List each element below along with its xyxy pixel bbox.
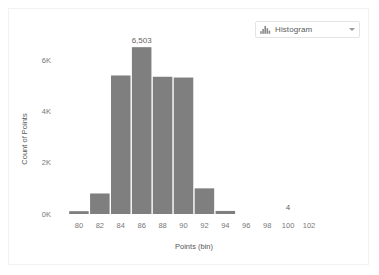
- x-tick-label: 100: [282, 221, 295, 230]
- x-tick-label: 84: [117, 221, 125, 230]
- bar-value-label: 6,503: [132, 36, 153, 45]
- y-tick-label: 6K: [42, 56, 51, 65]
- x-tick-label: 96: [242, 221, 250, 230]
- x-tick-label: 98: [263, 221, 271, 230]
- x-tick-label: 92: [200, 221, 208, 230]
- histogram-svg: 0K2K4K6K 80828486889092949698100102 6,50…: [9, 9, 370, 266]
- bar[interactable]: [195, 188, 215, 214]
- y-tick-label: 2K: [42, 158, 51, 167]
- bar[interactable]: [90, 193, 110, 214]
- histogram-plot: 0K2K4K6K 80828486889092949698100102 6,50…: [9, 9, 370, 266]
- x-tick-label: 102: [303, 221, 316, 230]
- bars-group: [69, 47, 235, 214]
- x-tick-label: 80: [75, 221, 83, 230]
- bar[interactable]: [69, 211, 89, 214]
- y-tick-label: 4K: [42, 107, 51, 116]
- y-tick-label: 0K: [42, 210, 51, 219]
- bar[interactable]: [132, 47, 152, 214]
- bar[interactable]: [174, 78, 194, 214]
- bar-value-label: 4: [286, 203, 291, 212]
- x-tick-label: 88: [158, 221, 166, 230]
- x-tick-label: 94: [221, 221, 229, 230]
- bar[interactable]: [111, 75, 131, 214]
- chart-card: Histogram 0K2K4K6K 808284868890929496981…: [8, 8, 369, 265]
- x-tick-label: 90: [179, 221, 187, 230]
- bar[interactable]: [216, 211, 236, 214]
- x-axis-title: Points (bin): [175, 242, 213, 251]
- y-axis-title: Count of Points: [20, 113, 29, 165]
- x-axis-ticks: 80828486889092949698100102: [75, 221, 316, 230]
- x-tick-label: 86: [137, 221, 145, 230]
- bar[interactable]: [153, 77, 173, 214]
- y-axis-ticks: 0K2K4K6K: [42, 56, 51, 219]
- x-tick-label: 82: [96, 221, 104, 230]
